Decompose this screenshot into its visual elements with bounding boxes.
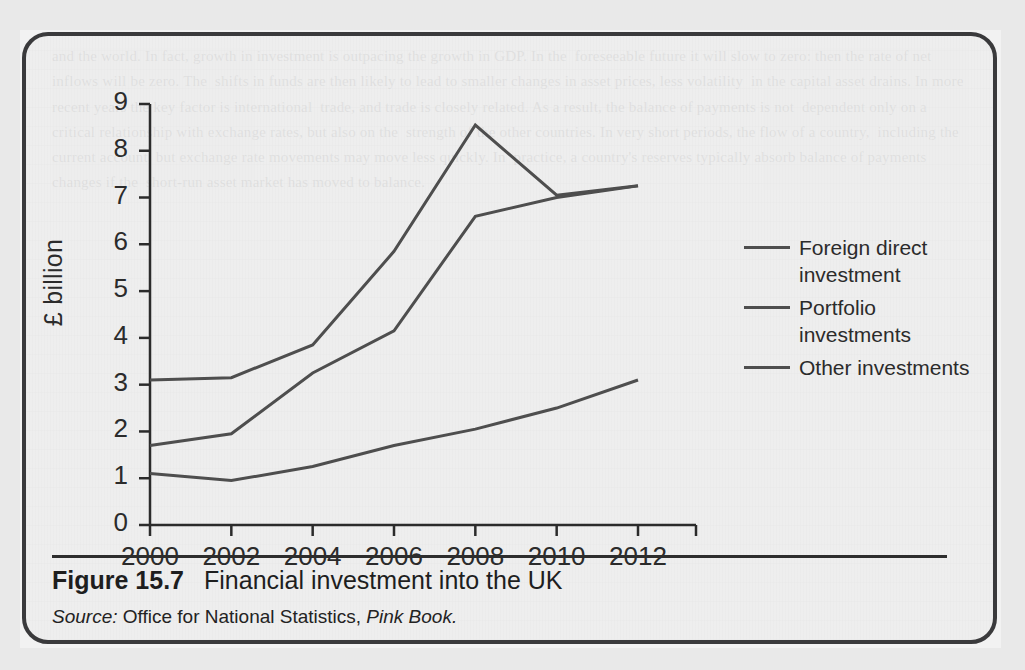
y-tick-label: 8 — [98, 133, 128, 164]
y-tick-label: 0 — [98, 507, 128, 538]
source-organisation: Office for National Statistics, — [123, 606, 361, 627]
legend-item[interactable]: Foreign direct investment — [744, 234, 994, 288]
legend-item[interactable]: Portfolio investments — [744, 294, 994, 348]
page-margin-left — [0, 0, 20, 670]
legend-line-swatch-icon — [744, 246, 790, 249]
y-tick-label: 4 — [98, 320, 128, 351]
y-tick-label: 1 — [98, 460, 128, 491]
legend-item-label: Other investments — [799, 354, 969, 381]
figure-caption: Figure 15.7Financial investment into the… — [52, 566, 952, 628]
caption-divider-rule — [52, 555, 947, 558]
series-line-portfolio-investments — [150, 125, 638, 380]
chart-series-lines — [150, 125, 638, 481]
source-publication: Pink Book. — [366, 606, 457, 627]
page-margin-right — [1001, 0, 1025, 670]
scanned-page: and the world. In fact, growth in invest… — [0, 0, 1025, 670]
legend-line-swatch-icon — [744, 306, 790, 309]
y-tick-label: 3 — [98, 367, 128, 398]
figure-frame: and the world. In fact, growth in invest… — [22, 32, 997, 644]
chart-plot-area: £ billion 0123456789 2000200220042006200… — [26, 36, 997, 644]
y-tick-label: 9 — [98, 86, 128, 117]
y-tick-label: 7 — [98, 180, 128, 211]
chart-axes — [139, 104, 696, 536]
chart-legend: Foreign direct investmentPortfolio inves… — [744, 234, 994, 387]
figure-title: Financial investment into the UK — [204, 566, 563, 594]
page-margin-bottom — [0, 648, 1025, 670]
legend-item[interactable]: Other investments — [744, 354, 994, 381]
y-tick-label: 2 — [98, 413, 128, 444]
legend-line-swatch-icon — [744, 366, 790, 369]
page-margin-top — [0, 0, 1025, 30]
series-line-foreign-direct-investment — [150, 380, 638, 481]
caption-title-line: Figure 15.7Financial investment into the… — [52, 566, 952, 595]
source-label: Source: — [52, 606, 117, 627]
figure-source-line: Source: Office for National Statistics, … — [52, 606, 952, 628]
legend-item-label: Foreign direct investment — [799, 234, 989, 288]
figure-number: Figure 15.7 — [52, 566, 184, 594]
legend-item-label: Portfolio investments — [799, 294, 989, 348]
y-tick-label: 5 — [98, 273, 128, 304]
y-tick-label: 6 — [98, 226, 128, 257]
